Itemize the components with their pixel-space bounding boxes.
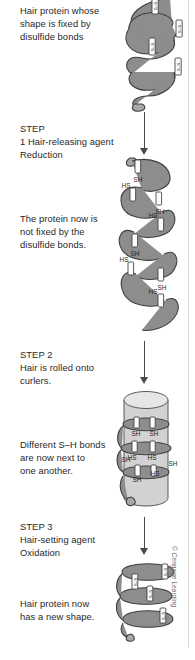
svg-text:S–S: S–S xyxy=(176,63,181,71)
caption-step-2: STEP 2 Hair is rolled onto curlers. xyxy=(20,348,126,387)
svg-text:S–S: S–S xyxy=(163,568,168,576)
arrow-head-icon xyxy=(140,377,148,384)
disulfide-bond: S–S xyxy=(147,586,153,601)
svg-text:S–S: S–S xyxy=(153,2,158,10)
arrow-shaft xyxy=(144,517,145,550)
svg-text:HS: HS xyxy=(149,288,158,295)
copyright-notice: © Cengage Learning xyxy=(171,546,178,607)
svg-text:SH: SH xyxy=(131,250,140,257)
thiol-left: HS xyxy=(120,256,134,275)
svg-text:S–S: S–S xyxy=(161,612,166,620)
disulfide-bond: S–S xyxy=(175,58,181,75)
svg-text:S–S: S–S xyxy=(150,43,155,51)
figure-reduced-protein-thiols: SH HS SH HS SH xyxy=(108,152,194,342)
svg-text:HS: HS xyxy=(151,470,160,477)
svg-text:SH: SH xyxy=(133,476,142,483)
disulfide-bond: S–S xyxy=(132,574,138,589)
figure-coiled-protein-disulfide: S–S S–S S–S S–S xyxy=(108,0,194,114)
svg-text:SH: SH xyxy=(150,430,159,437)
svg-text:SH: SH xyxy=(122,456,131,463)
disulfide-bond: S–S xyxy=(152,0,158,14)
disulfide-bond: S–S xyxy=(160,608,166,623)
figure-panel: Hair protein whose shape is fixed by dis… xyxy=(0,0,195,660)
svg-text:SH: SH xyxy=(158,284,167,291)
disulfide-bond: S–S xyxy=(162,564,168,579)
svg-text:SH: SH xyxy=(169,460,178,467)
svg-text:HS: HS xyxy=(122,182,131,189)
svg-text:SH: SH xyxy=(132,430,141,437)
figure-hair-on-curler: SH SH HS HS SH SH HS SH xyxy=(110,386,194,514)
svg-text:S–S: S–S xyxy=(133,578,138,586)
svg-text:S–S: S–S xyxy=(148,590,153,598)
caption-stage-4: Hair protein now has a new shape. xyxy=(20,597,126,623)
disulfide-bond: S–S xyxy=(176,20,182,37)
svg-text:S–S: S–S xyxy=(177,25,182,33)
svg-text:HS: HS xyxy=(148,454,157,461)
svg-text:SH: SH xyxy=(134,176,143,183)
figure-reset-protein-new-shape: S–S S–S S–S S–S xyxy=(112,552,190,644)
svg-text:HS: HS xyxy=(149,212,158,219)
disulfide-bond: S–S xyxy=(149,38,155,55)
alpha-helix-ribbon xyxy=(126,0,176,111)
arrow-shaft xyxy=(144,341,145,379)
arrow-shaft xyxy=(144,112,145,150)
svg-text:HS: HS xyxy=(120,256,129,263)
caption-step-3: STEP 3 Hair-setting agent Oxidation xyxy=(20,520,126,559)
